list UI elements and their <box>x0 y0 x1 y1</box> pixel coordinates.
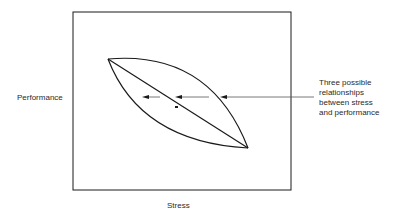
x-axis-label: Stress <box>167 201 190 211</box>
arrowhead-line-icon <box>175 95 182 99</box>
annotation-line: Three possible <box>319 78 399 88</box>
annotation-text: Three possible relationships between str… <box>319 78 399 118</box>
arrowhead-upper-icon <box>220 95 227 99</box>
annotation-line: relationships <box>319 88 399 98</box>
straight-line <box>108 59 248 148</box>
center-mark <box>175 106 178 108</box>
annotation-line: and performance <box>319 108 399 118</box>
arrowhead-lower-icon <box>142 95 149 99</box>
annotation-line: between stress <box>319 98 399 108</box>
y-axis-label: Performance <box>17 93 63 103</box>
plot-frame <box>73 12 291 190</box>
